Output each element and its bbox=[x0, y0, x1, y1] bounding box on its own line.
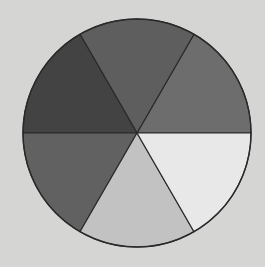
figure-canvas bbox=[0, 0, 265, 267]
segmented-circle bbox=[0, 0, 265, 267]
